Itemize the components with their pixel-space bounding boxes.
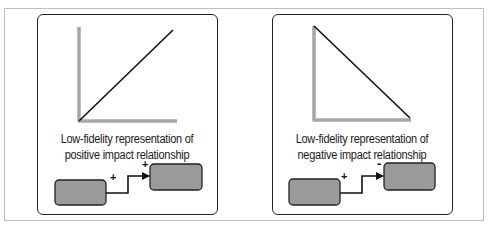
caption-positive: Low-fidelity representation of positive …	[48, 131, 206, 163]
caption-line-1: Low-fidelity representation of	[48, 131, 206, 147]
caption-line-2: negative impact relationship	[283, 147, 441, 163]
caption-line-2: positive impact relationship	[48, 147, 206, 163]
trend-line-decreasing	[314, 26, 410, 118]
source-sign: +	[341, 170, 347, 182]
source-node	[289, 179, 340, 205]
target-node	[384, 163, 435, 190]
diagram-canvas: + + + -	[0, 0, 490, 228]
caption-negative: Low-fidelity representation of negative …	[283, 131, 441, 163]
positive-graph	[78, 27, 177, 122]
caption-line-1: Low-fidelity representation of	[283, 131, 441, 147]
source-sign: +	[110, 171, 116, 183]
negative-causal-link: + -	[289, 156, 435, 205]
trend-line-increasing	[79, 30, 173, 121]
positive-causal-link: + +	[55, 158, 202, 205]
target-node	[150, 164, 202, 190]
source-node	[55, 180, 106, 205]
negative-graph	[313, 26, 411, 121]
